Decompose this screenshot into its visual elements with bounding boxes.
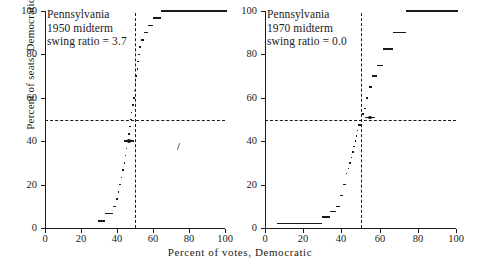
curve-step-mark: [135, 83, 137, 85]
curve-step-mark: [137, 61, 139, 63]
curve-step-mark: [126, 148, 128, 150]
curve-step-mark: [116, 198, 118, 200]
x-axis-tick-label: 0: [32, 234, 58, 245]
curve-step-mark: [129, 126, 131, 128]
curve-step-mark: [128, 133, 130, 135]
curve-step-mark: [351, 157, 353, 159]
curve-step-mark: [150, 25, 153, 27]
panel-caption-left: Pennsylvania 1950 midterm swing ratio = …: [47, 8, 127, 49]
observed-result-crossbar: [365, 117, 375, 119]
curve-step-mark: [352, 151, 354, 153]
curve-step-mark: [137, 68, 139, 70]
y-axis-label: Percent of seats, Democratic: [24, 0, 36, 154]
y-axis-tick: [261, 141, 265, 142]
curve-step-mark: [361, 119, 363, 121]
curve-step-mark: [377, 65, 384, 67]
x-axis-tick-label: 60: [140, 234, 166, 245]
caption-swing-ratio-right: swing ratio = 0.0: [267, 35, 347, 49]
curve-step-mark: [364, 108, 366, 110]
curve-step-mark: [359, 124, 361, 126]
y-axis-tick-label: 100: [231, 6, 257, 17]
curve-step-mark: [383, 48, 393, 50]
caption-swing-ratio-left: swing ratio = 3.7: [47, 35, 127, 49]
y-axis-tick-label: 60: [231, 93, 257, 104]
curve-step-mark: [134, 90, 136, 92]
curve-step-mark: [133, 97, 135, 99]
x-axis-tick-label: 100: [443, 234, 469, 245]
y-axis-tick-label: 80: [11, 49, 37, 60]
y-axis-tick: [41, 98, 45, 99]
y-axis-tick-label: 60: [11, 93, 37, 104]
curve-step-mark: [122, 169, 124, 171]
curve-step-mark: [136, 75, 138, 77]
y-axis-tick-label: 100: [11, 6, 37, 17]
y-axis-tick-label: 40: [11, 136, 37, 147]
curve-step-mark: [330, 211, 336, 213]
panel-caption-right: Pennsylvania 1970 midterm swing ratio = …: [267, 8, 347, 49]
curve-step-mark: [121, 177, 123, 179]
y-axis-tick: [261, 185, 265, 186]
curve-step-mark: [406, 10, 456, 12]
y-axis-tick-label: 0: [231, 223, 257, 234]
y-axis-tick-label: 40: [231, 136, 257, 147]
curve-step-mark: [322, 216, 330, 218]
curve-step-mark: [139, 46, 141, 48]
curve-step-mark: [340, 195, 343, 197]
curve-step-mark: [110, 213, 114, 215]
caption-election-left: 1950 midterm: [47, 22, 127, 36]
curve-step-mark: [393, 32, 406, 34]
reference-line-50pct-votes: [361, 13, 362, 228]
reference-line-50pct-votes: [135, 13, 136, 228]
curve-step-mark: [362, 113, 364, 115]
x-axis-tick-label: 40: [104, 234, 130, 245]
curve-step-mark: [349, 162, 351, 164]
curve-step-mark: [124, 162, 126, 164]
seats-votes-figure: Percent of seats, Democratic Percent of …: [0, 0, 480, 269]
scan-speck: [177, 143, 180, 150]
curve-step-mark: [119, 184, 121, 186]
curve-step-mark: [353, 146, 355, 148]
x-axis-tick-label: 80: [405, 234, 431, 245]
curve-step-mark: [142, 39, 144, 41]
curve-step-mark: [348, 168, 350, 170]
caption-election-right: 1970 midterm: [267, 22, 347, 36]
y-axis-tick: [261, 54, 265, 55]
caption-state-right: Pennsylvania: [267, 8, 347, 22]
curve-step-mark: [369, 86, 372, 88]
curve-step-mark: [113, 206, 115, 208]
curve-step-mark: [138, 54, 140, 56]
caption-state-left: Pennsylvania: [47, 8, 127, 22]
curve-step-mark: [372, 75, 377, 77]
y-axis-tick: [41, 11, 45, 12]
x-axis-spine: [45, 228, 225, 229]
y-axis-tick: [261, 11, 265, 12]
curve-step-mark: [346, 173, 348, 175]
curve-step-mark: [336, 206, 341, 208]
curve-step-mark: [313, 223, 323, 225]
curve-step-mark: [166, 10, 225, 12]
curve-step-mark: [355, 140, 357, 142]
x-axis-label: Percent of votes, Democratic: [0, 246, 480, 258]
x-axis-tick-label: 80: [176, 234, 202, 245]
curve-step-mark: [101, 220, 106, 222]
y-axis-tick: [261, 98, 265, 99]
y-axis-tick: [41, 54, 45, 55]
x-axis-tick-label: 40: [328, 234, 354, 245]
x-axis-tick-label: 20: [68, 234, 94, 245]
curve-step-mark: [125, 155, 127, 157]
x-axis-tick-label: 60: [367, 234, 393, 245]
y-axis-tick-label: 20: [11, 180, 37, 191]
curve-step-mark: [130, 119, 132, 121]
y-axis-tick: [41, 185, 45, 186]
curve-step-mark: [343, 184, 345, 186]
curve-step-mark: [157, 17, 162, 19]
curve-step-mark: [356, 135, 358, 137]
x-axis-spine: [265, 228, 456, 229]
curve-step-mark: [277, 223, 313, 225]
curve-step-mark: [131, 112, 133, 114]
curve-step-mark: [366, 97, 369, 99]
curve-step-mark: [357, 130, 359, 132]
x-axis-tick-label: 20: [290, 234, 316, 245]
curve-step-mark: [145, 32, 147, 34]
y-axis-tick-label: 0: [11, 223, 37, 234]
